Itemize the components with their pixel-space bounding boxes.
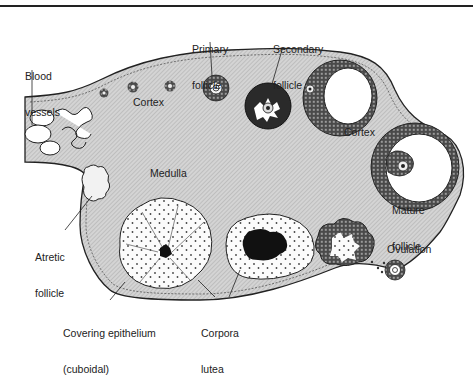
label-covering-epithelium: Covering epithelium (cuboidal)	[63, 303, 156, 379]
label-medulla: Medulla	[150, 167, 187, 179]
label-cortex-right: Cortex	[344, 126, 375, 138]
label-cortex-left: Cortex	[133, 96, 164, 108]
label-ovulation: Ovulation	[387, 243, 431, 255]
label-primary-follicle: Primary follicle	[192, 19, 228, 103]
label-atretic-follicle: Atretic follicle	[35, 227, 65, 311]
label-secondary-follicle: Secondary follicle	[273, 19, 323, 103]
label-corpora-lutea: Corpora lutea	[201, 303, 239, 379]
atretic-follicle-illustration	[82, 165, 110, 201]
corpus-luteum-right-illustration	[226, 214, 314, 279]
corpus-luteum-left-illustration	[120, 198, 212, 289]
label-blood-vessels: Blood vessels	[25, 46, 60, 130]
